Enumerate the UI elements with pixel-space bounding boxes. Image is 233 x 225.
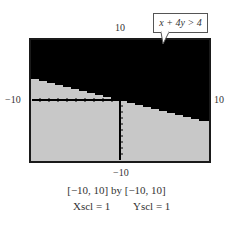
- xmax-label: 10: [214, 95, 224, 105]
- callout-tail: [0, 0, 233, 60]
- xmin-label: −10: [5, 95, 21, 105]
- xscl-label: Xscl = 1: [73, 201, 110, 211]
- yscl-label: Yscl = 1: [133, 201, 170, 211]
- window-range: [−10, 10] by [−10, 10]: [0, 184, 233, 196]
- ymin-label: −10: [113, 168, 129, 178]
